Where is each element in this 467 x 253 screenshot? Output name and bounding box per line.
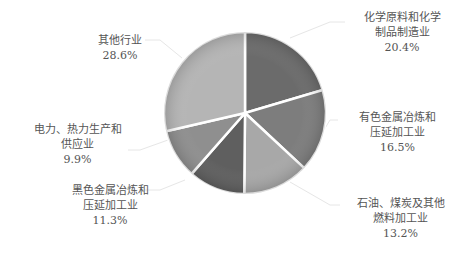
label-ferrous: 黑色金属冶炼和 压延加工业 11.3% bbox=[55, 183, 165, 228]
label-petroleum: 石油、煤炭及其他 燃料加工业 13.2% bbox=[338, 196, 463, 241]
label-power: 电力、热力生产和 供应业 9.9% bbox=[20, 122, 135, 167]
label-nonferrous: 有色金属冶炼和 压延加工业 16.5% bbox=[335, 110, 460, 155]
label-other: 其他行业 28.6% bbox=[80, 33, 160, 63]
label-chemical: 化学原料和化学 制品制造业 20.4% bbox=[342, 10, 462, 55]
